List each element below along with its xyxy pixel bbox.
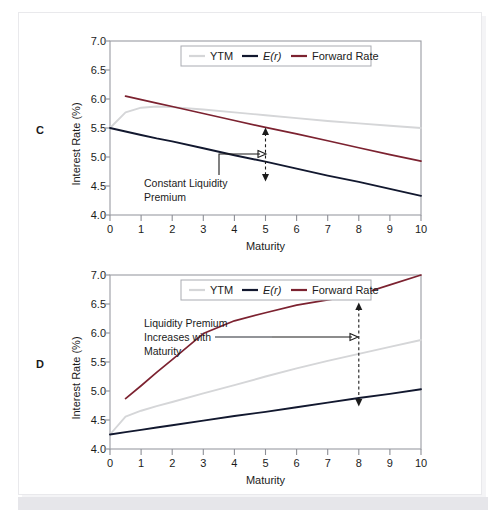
y-tick-label: 5.5	[91, 122, 106, 134]
legend-label-er-d: E(r)	[263, 284, 282, 296]
y-tick-label: 7.0	[91, 35, 106, 47]
plot-area-border-d	[110, 275, 421, 449]
y-tick-label: 6.0	[91, 327, 106, 339]
annotation-text-d-line3: Maturity	[144, 345, 182, 357]
x-axis-ticks-c	[110, 215, 421, 221]
y-tick-label: 4.0	[91, 209, 106, 221]
x-tick-label: 6	[294, 223, 300, 235]
legend-label-ytm-c: YTM	[210, 50, 233, 62]
y-tick-label: 4.0	[91, 443, 106, 455]
annotation-leader-c	[219, 151, 266, 176]
annotation-text-d-line2: Increases with	[144, 331, 211, 343]
x-tick-label: 8	[356, 223, 362, 235]
annotation-text-c-line2: Premium	[144, 191, 186, 203]
y-tick-label: 7.0	[91, 269, 106, 281]
series-line-er-d	[110, 389, 421, 434]
legend-label-forward-rate-d: Forward Rate	[312, 284, 379, 296]
x-tick-label: 2	[169, 223, 175, 235]
chart-c-svg: Interest Rate (%) 7.0 6.5 6.0 5.5 5.0 4.…	[22, 24, 478, 256]
x-tick-label: 0	[107, 457, 113, 469]
x-tick-label: 7	[325, 457, 331, 469]
x-tick-label: 10	[415, 223, 427, 235]
y-tick-label: 4.5	[91, 180, 106, 192]
x-tick-label: 6	[294, 457, 300, 469]
annotation-text-d-line1: Liquidity Premium	[144, 317, 228, 329]
chart-d-svg: Interest Rate (%) 7.0 6.5 6.0 5.5 5.0 4.…	[22, 258, 478, 490]
x-tick-label: 3	[200, 457, 206, 469]
x-axis-ticks-d	[110, 449, 421, 455]
annotation-leader-d	[215, 334, 358, 341]
chart-panel-d: Interest Rate (%) 7.0 6.5 6.0 5.5 5.0 4.…	[22, 258, 478, 490]
series-line-ytm-c	[110, 107, 421, 128]
legend-c: YTM E(r) Forward Rate	[181, 46, 379, 66]
y-tick-label: 5.0	[91, 385, 106, 397]
x-tick-label: 10	[415, 457, 427, 469]
legend-label-ytm-d: YTM	[210, 284, 233, 296]
figure-page: C Interest Rate (%) 7.0 6.5 6.0 5.5 5.0 …	[0, 0, 500, 525]
page-bottom-edge	[18, 497, 488, 510]
series-line-forward-rate-c	[126, 96, 421, 161]
x-tick-label: 2	[169, 457, 175, 469]
legend-label-er-c: E(r)	[263, 50, 282, 62]
x-tick-label: 5	[262, 457, 268, 469]
x-tick-label: 7	[325, 223, 331, 235]
y-tick-label: 5.5	[91, 356, 106, 368]
y-tick-label: 6.0	[91, 93, 106, 105]
legend-label-forward-rate-c: Forward Rate	[312, 50, 379, 62]
x-tick-label: 0	[107, 223, 113, 235]
x-tick-label: 3	[200, 223, 206, 235]
y-axis-title-c: Interest Rate (%)	[70, 102, 82, 185]
x-tick-label: 4	[231, 223, 237, 235]
y-tick-label: 5.0	[91, 151, 106, 163]
x-tick-label: 1	[138, 457, 144, 469]
x-tick-label: 9	[387, 457, 393, 469]
annotation-text-c-line1: Constant Liquidity	[144, 177, 228, 189]
x-tick-label: 9	[387, 223, 393, 235]
x-tick-label: 4	[231, 457, 237, 469]
x-tick-label: 5	[262, 223, 268, 235]
legend-d: YTM E(r) Forward Rate	[181, 280, 379, 300]
x-tick-label: 1	[138, 223, 144, 235]
x-axis-title-c: Maturity	[246, 240, 286, 252]
x-axis-title-d: Maturity	[246, 474, 286, 486]
y-tick-label: 4.5	[91, 414, 106, 426]
y-tick-label: 6.5	[91, 298, 106, 310]
y-tick-label: 6.5	[91, 64, 106, 76]
y-axis-title-d: Interest Rate (%)	[70, 336, 82, 419]
chart-panel-c: Interest Rate (%) 7.0 6.5 6.0 5.5 5.0 4.…	[22, 24, 478, 256]
x-tick-label: 8	[356, 457, 362, 469]
